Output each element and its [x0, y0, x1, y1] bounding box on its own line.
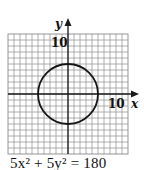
coordinate-plane: y 10 10 x — [0, 0, 144, 170]
equation-caption: 5x² + 5y² = 180 — [10, 155, 106, 170]
x-tick-label: 10 — [108, 97, 125, 111]
x-axis-label: x — [130, 97, 139, 111]
y-tick-label: 10 — [51, 36, 68, 50]
y-axis-arrow-icon — [65, 18, 72, 26]
graph-figure: y 10 10 x 5x² + 5y² = 180 — [0, 0, 144, 170]
y-axis-label: y — [54, 17, 63, 31]
